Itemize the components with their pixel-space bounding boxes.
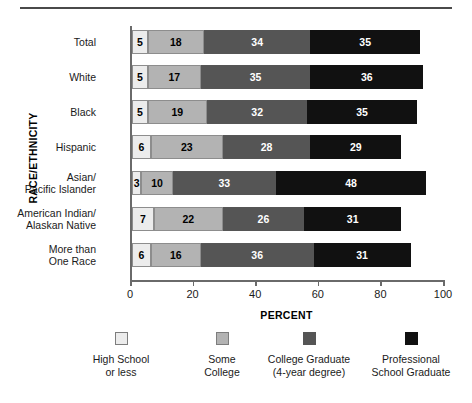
x-axis-tick [130,280,132,286]
bar-segment: 22 [154,207,223,231]
legend-swatch [303,332,316,345]
legend-item[interactable]: Professional School Graduate [352,332,470,379]
bar-segment: 5 [132,100,148,124]
plot-area: 5183435Total5173536White5193235Black6232… [130,26,443,280]
bar-segment: 36 [201,243,314,267]
bar-segment: 35 [310,30,420,54]
category-label: Black [0,106,96,118]
x-axis-tick [255,280,257,286]
bar-segment: 35 [307,100,417,124]
legend-swatch [405,332,418,345]
bar-segment: 16 [151,243,201,267]
header-divider [20,7,452,9]
x-axis-tick-label: 100 [423,288,463,300]
bar-segment: 28 [223,135,311,159]
bar-segment: 34 [204,30,310,54]
legend-item[interactable]: College Graduate (4-year degree) [250,332,368,379]
bar-segment: 17 [148,65,201,89]
bar-segment: 5 [132,30,148,54]
legend-label: Professional School Graduate [352,353,470,379]
bar-segment: 23 [151,135,223,159]
bar-segment: 3 [132,171,141,195]
x-axis-tick [318,280,320,286]
category-label: White [0,71,96,83]
bar-segment: 7 [132,207,154,231]
bar-segment: 5 [132,65,148,89]
category-label: Hispanic [0,141,96,153]
category-label: American Indian/ Alaskan Native [0,207,96,231]
bar-segment: 32 [207,100,307,124]
bar-segment: 26 [223,207,304,231]
chart-figure: RACE/ETHNICITY 5183435Total5173536White5… [0,0,472,403]
bar-segment: 18 [148,30,204,54]
bar-segment: 31 [314,243,411,267]
x-axis-tick-label: 20 [173,288,213,300]
category-label: More than One Race [0,243,96,267]
bar-segment: 6 [132,243,151,267]
chart-legend: High School or lessSome CollegeCollege G… [0,332,472,398]
legend-swatch [216,332,229,345]
x-axis-title: PERCENT [130,309,443,321]
bar-segment: 19 [148,100,207,124]
bar-segment: 10 [141,171,172,195]
x-axis-line [130,280,443,282]
legend-swatch [115,332,128,345]
bar-segment: 31 [304,207,401,231]
bar-segment: 33 [173,171,276,195]
x-axis-tick-label: 80 [360,288,400,300]
x-axis-tick [443,280,445,286]
bar-segment: 35 [201,65,311,89]
category-label: Asian/ Pacific Islander [0,171,96,195]
bar-segment: 29 [310,135,401,159]
bar-segment: 6 [132,135,151,159]
bar-segment: 48 [276,171,426,195]
x-axis-tick-label: 0 [110,288,150,300]
x-axis-tick-label: 60 [298,288,338,300]
x-axis-tick [193,280,195,286]
legend-label: College Graduate (4-year degree) [250,353,368,379]
x-axis-tick [380,280,382,286]
bar-segment: 36 [310,65,423,89]
category-label: Total [0,36,96,48]
x-axis-tick-label: 40 [235,288,275,300]
